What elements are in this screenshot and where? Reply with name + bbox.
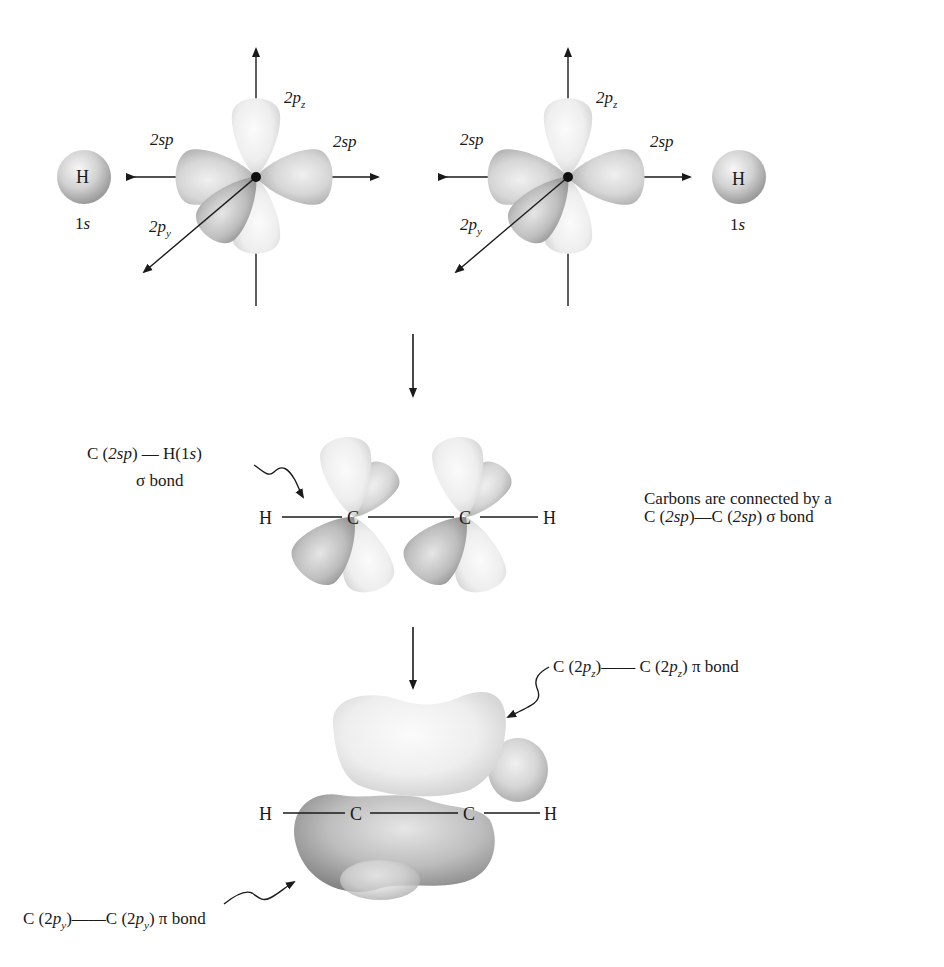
label-part: y	[61, 919, 66, 931]
label-part: 2sp	[733, 507, 757, 526]
label-part: )—C (	[689, 507, 733, 526]
py-main: 2p	[149, 217, 166, 236]
py-main: 2p	[460, 215, 477, 234]
label-part: ) π bond	[149, 909, 206, 928]
left-c-2sp-left-label: 2sp	[150, 131, 174, 148]
bot-c-left: C	[350, 805, 362, 823]
py-subscript: y	[166, 227, 171, 239]
pz-main: 2p	[596, 88, 613, 107]
label-part: z	[591, 667, 595, 679]
left-c-2pz-label: 2pz	[284, 89, 305, 106]
pz-pi-bond-label: C (2pz)—— C (2pz) π bond	[553, 658, 739, 675]
label-part: p	[53, 909, 62, 928]
orbital-number: 1	[75, 214, 84, 233]
left-c-2sp-right-label: 2sp	[333, 133, 357, 150]
cc-sigma-note-line1: Carbons are connected by a	[644, 490, 832, 507]
py-pi-bond-label: C (2py)——C (2py) π bond	[23, 910, 206, 927]
label-part: )	[196, 444, 202, 463]
right-h-atom-label: H	[732, 170, 745, 188]
left-c-2py-label: 2py	[149, 218, 171, 235]
left-h-atom-label: H	[76, 168, 89, 186]
bot-h-right: H	[544, 805, 557, 823]
label-part: )——C (2	[66, 909, 135, 928]
mid-c-right: C	[459, 509, 471, 527]
right-h-orbital-label: 1s	[730, 216, 745, 233]
pz-main: 2p	[284, 88, 301, 107]
label-part: H(1	[163, 444, 189, 463]
label-part: C (	[644, 507, 665, 526]
label-part: p	[669, 657, 678, 676]
py-pi-bond-pointer-arrow	[224, 882, 294, 904]
orbital-letter: s	[739, 215, 746, 234]
label-part: 2sp	[108, 444, 132, 463]
orbital-number: 1	[730, 215, 739, 234]
pz-subscript: z	[301, 98, 305, 110]
label-part: z	[678, 667, 682, 679]
pz-pi-bond-pointer-arrow	[508, 667, 549, 717]
right-carbon-sp-hybrid	[446, 49, 690, 306]
pi-bond-orbitals	[283, 692, 548, 900]
label-part: p	[136, 909, 145, 928]
right-c-2py-label: 2py	[460, 216, 482, 233]
mid-h-right: H	[543, 509, 556, 527]
label-part: —	[138, 444, 164, 463]
label-part: p	[583, 657, 592, 676]
orbital-letter: s	[84, 214, 91, 233]
right-c-2sp-right-label: 2sp	[650, 133, 674, 150]
label-part: ) π bond	[682, 657, 739, 676]
cc-sigma-note-line2: C (2sp)—C (2sp) σ bond	[644, 508, 814, 525]
left-carbon-sp-hybrid	[134, 49, 378, 306]
mid-h-left: H	[259, 509, 272, 527]
right-c-2pz-label: 2pz	[596, 89, 617, 106]
label-part: )—— C (2	[596, 657, 670, 676]
label-part: 2sp	[665, 507, 689, 526]
pz-subscript: z	[613, 98, 617, 110]
bot-h-left: H	[259, 805, 272, 823]
py-subscript: y	[477, 225, 482, 237]
mid-c-left: C	[347, 509, 359, 527]
ch-sigma-bond-type: σ bond	[136, 472, 183, 489]
label-part: C (2	[23, 909, 53, 928]
label-part: ) σ bond	[756, 507, 813, 526]
sigma-bond-pointer-arrow	[254, 465, 303, 497]
label-part: C	[87, 444, 98, 463]
label-part: C (2	[553, 657, 583, 676]
label-part: y	[144, 919, 149, 931]
bot-c-right: C	[463, 805, 475, 823]
right-c-2sp-left-label: 2sp	[460, 131, 484, 148]
ch-sigma-bond-label: C (2sp) — H(1s)	[87, 445, 202, 462]
sigma-framework	[282, 434, 538, 598]
left-h-orbital-label: 1s	[75, 215, 90, 232]
